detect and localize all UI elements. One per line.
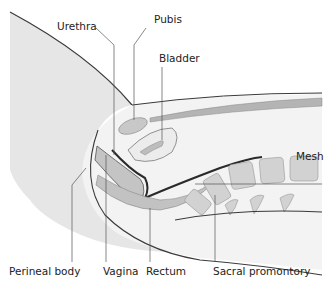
perineal-body-label: Perineal body bbox=[9, 266, 80, 277]
sacral-promontory-label: Sacral promontory bbox=[213, 266, 310, 277]
pelvis-diagram bbox=[0, 0, 330, 286]
bladder-label: Bladder bbox=[159, 53, 200, 64]
pubis-label: Pubis bbox=[154, 14, 182, 25]
urethra-label: Urethra bbox=[57, 21, 97, 32]
mesh-label: Mesh bbox=[296, 151, 324, 162]
rectum-label: Rectum bbox=[146, 266, 186, 277]
vagina-label: Vagina bbox=[103, 266, 138, 277]
